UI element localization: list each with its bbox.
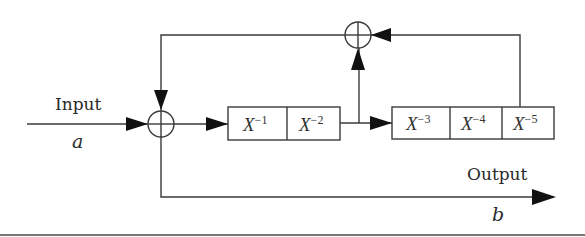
arrow-right-icon [532, 189, 556, 205]
input-symbol: a [72, 130, 83, 152]
output-symbol: b [492, 203, 504, 225]
line-register1-to-register2 [340, 48, 392, 130]
input-line [27, 117, 148, 131]
input-label: Input [55, 94, 101, 114]
output-label: Output [467, 164, 528, 184]
adder-input [148, 111, 174, 137]
adder-feedback [345, 22, 371, 48]
arrow-right-icon [206, 117, 228, 131]
arrow-up-icon [351, 48, 365, 70]
feedback-loop [154, 28, 520, 111]
arrow-left-icon [371, 28, 391, 42]
arrow-down-icon [154, 90, 168, 110]
arrow-right-icon [126, 117, 148, 131]
arrow-right-icon [370, 116, 392, 130]
line-adder-to-register1 [174, 117, 228, 131]
block-diagram: Input a Output b X−1 X−2 X−3 X−4 X−5 [0, 0, 585, 237]
